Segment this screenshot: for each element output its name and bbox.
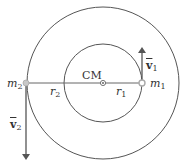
velocity2-label: v2 <box>10 119 22 132</box>
mass1-label: m1 <box>150 78 166 91</box>
mass2-label: m2 <box>7 78 23 91</box>
radius1-label: r1 <box>116 86 126 99</box>
mass1-dot <box>139 80 145 86</box>
velocity1-label: v1 <box>146 60 158 73</box>
cm-label: CM <box>82 70 102 81</box>
orbit-diagram: CM m1 m2 r1 r2 v1 v2 <box>0 0 182 166</box>
radius2-label: r2 <box>50 86 60 99</box>
mass2-dot <box>23 80 29 86</box>
